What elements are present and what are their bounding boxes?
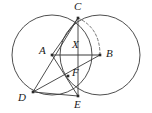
segments-group — [33, 18, 100, 96]
point-label-B: B — [106, 48, 113, 59]
dashed-arc-CB — [78, 18, 100, 55]
marker-E — [77, 95, 80, 98]
point-label-F: F — [72, 67, 79, 78]
point-label-C: C — [74, 1, 81, 12]
point-label-A: A — [39, 45, 46, 56]
point-markers-group — [32, 17, 102, 98]
marker-A — [51, 54, 54, 57]
point-label-D: D — [18, 92, 26, 103]
point-label-E: E — [74, 99, 81, 110]
marker-C — [77, 17, 80, 20]
segment-DE — [33, 92, 78, 96]
dashed-arcs-group — [78, 18, 100, 55]
segment-DB — [33, 55, 100, 92]
geometry-figure: C A B X F D E — [0, 0, 152, 113]
point-label-X: X — [72, 39, 79, 50]
marker-F — [67, 75, 70, 78]
marker-B — [99, 54, 102, 57]
marker-D — [32, 91, 35, 94]
